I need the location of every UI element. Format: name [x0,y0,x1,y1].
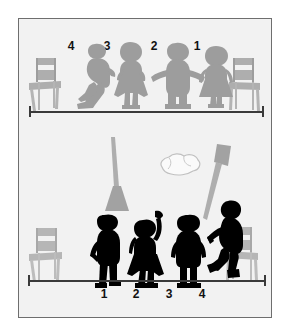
chair-left-bottom [27,227,65,283]
rule-cap-left-top [29,106,31,117]
chair-left-top [27,57,63,113]
bottom-label-1: 1 [97,288,111,300]
bottom-label-3: 3 [162,288,176,300]
crumpled-paper [156,151,202,177]
bottom-row-scene: 1 2 3 4 [19,169,271,317]
bottom-figure-2 [126,207,168,289]
rule-cap-left-bottom [28,275,30,286]
illustration-frame: 4 3 2 1 [18,18,272,318]
rule-cap-right-top [262,106,264,117]
illustration-canvas: 4 3 2 1 [0,0,290,336]
broom-left [102,137,136,213]
bottom-figure-4 [205,199,253,289]
measurement-rule-top [29,111,264,113]
top-figure-1 [196,45,236,109]
bottom-label-2: 2 [129,288,143,300]
measurement-rule-bottom [28,280,266,282]
top-figure-3 [111,41,151,111]
bottom-figure-3 [169,213,209,289]
bottom-figure-1 [88,213,126,289]
rule-cap-right-bottom [264,275,266,286]
bottom-label-4: 4 [195,288,209,300]
